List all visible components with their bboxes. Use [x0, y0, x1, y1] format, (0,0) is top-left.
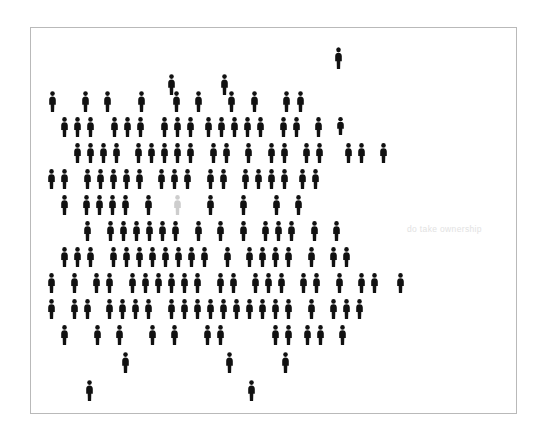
person-pictogram — [86, 247, 95, 267]
person-pictogram — [357, 273, 366, 293]
person-pictogram — [344, 143, 353, 163]
person-pictogram — [161, 247, 170, 267]
person-pictogram — [396, 273, 405, 293]
person-pictogram — [134, 143, 143, 163]
person-pictogram — [271, 299, 280, 319]
person-pictogram — [171, 221, 180, 241]
person-pictogram — [216, 221, 225, 241]
person-pictogram — [73, 247, 82, 267]
person-pictogram — [186, 117, 195, 137]
person-pictogram — [338, 325, 347, 345]
person-pictogram — [281, 352, 290, 373]
person-pictogram — [180, 273, 189, 293]
person-pictogram — [86, 117, 95, 137]
person-pictogram — [145, 221, 154, 241]
person-pictogram — [174, 247, 183, 267]
person-pictogram — [315, 143, 324, 163]
person-pictogram — [355, 299, 364, 319]
person-pictogram — [135, 247, 144, 267]
person-pictogram — [244, 143, 253, 163]
person-pictogram — [92, 273, 101, 293]
person-pictogram — [342, 247, 351, 267]
person-pictogram — [183, 169, 192, 189]
person-pictogram — [119, 221, 128, 241]
person-pictogram — [254, 169, 263, 189]
person-pictogram — [141, 273, 150, 293]
person-pictogram — [284, 299, 293, 319]
person-pictogram — [144, 195, 153, 215]
person-pictogram — [342, 299, 351, 319]
person-pictogram — [284, 247, 293, 267]
person-pictogram — [83, 221, 92, 241]
person-pictogram — [280, 143, 289, 163]
person-pictogram — [298, 169, 307, 189]
person-pictogram — [258, 247, 267, 267]
person-pictogram — [144, 299, 153, 319]
person-pictogram — [250, 91, 259, 112]
person-pictogram — [312, 273, 321, 293]
person-pictogram — [82, 195, 91, 215]
person-pictogram — [316, 325, 325, 345]
person-pictogram — [335, 273, 344, 293]
person-pictogram — [200, 247, 209, 267]
person-pictogram — [329, 299, 338, 319]
person-pictogram — [206, 169, 215, 189]
person-pictogram — [206, 299, 215, 319]
person-pictogram — [60, 195, 69, 215]
person-pictogram — [96, 169, 105, 189]
person-pictogram — [60, 247, 69, 267]
person-pictogram — [136, 117, 145, 137]
person-pictogram — [173, 117, 182, 137]
person-pictogram — [229, 273, 238, 293]
person-pictogram — [239, 195, 248, 215]
person-pictogram — [109, 169, 118, 189]
person-pictogram — [267, 169, 276, 189]
person-pictogram — [160, 117, 169, 137]
person-pictogram — [251, 273, 260, 293]
person-pictogram — [137, 91, 146, 112]
person-pictogram — [332, 221, 341, 241]
person-pictogram — [314, 117, 323, 137]
person-pictogram — [170, 325, 179, 345]
artwork-frame: do take ownership — [30, 27, 517, 414]
person-pictogram — [148, 325, 157, 345]
person-pictogram — [310, 221, 319, 241]
person-pictogram — [135, 169, 144, 189]
person-pictogram — [148, 247, 157, 267]
person-pictogram — [60, 169, 69, 189]
person-pictogram — [222, 143, 231, 163]
person-pictogram — [311, 169, 320, 189]
person-pictogram — [370, 273, 379, 293]
person-pictogram — [83, 169, 92, 189]
person-pictogram — [167, 273, 176, 293]
person-pictogram — [274, 221, 283, 241]
person-pictogram — [282, 91, 291, 112]
person-pictogram — [95, 195, 104, 215]
person-pictogram — [307, 247, 316, 267]
person-pictogram — [261, 221, 270, 241]
person-pictogram — [121, 352, 130, 373]
crowd-figure-group — [31, 28, 516, 413]
person-pictogram — [225, 352, 234, 373]
person-pictogram — [173, 143, 182, 163]
person-pictogram — [267, 143, 276, 163]
highlighted-person-pictogram — [173, 195, 182, 215]
person-pictogram — [47, 299, 56, 319]
person-pictogram — [118, 299, 127, 319]
person-pictogram — [245, 247, 254, 267]
person-pictogram — [167, 299, 176, 319]
person-pictogram — [241, 169, 250, 189]
person-pictogram — [357, 143, 366, 163]
person-pictogram — [245, 299, 254, 319]
person-pictogram — [264, 273, 273, 293]
person-pictogram — [122, 169, 131, 189]
person-pictogram — [47, 169, 56, 189]
person-pictogram — [296, 91, 305, 112]
person-pictogram — [131, 299, 140, 319]
person-pictogram — [239, 221, 248, 241]
person-pictogram — [272, 195, 281, 215]
person-pictogram — [279, 117, 288, 137]
person-pictogram — [93, 325, 102, 345]
person-pictogram — [86, 143, 95, 163]
person-pictogram — [172, 91, 181, 112]
